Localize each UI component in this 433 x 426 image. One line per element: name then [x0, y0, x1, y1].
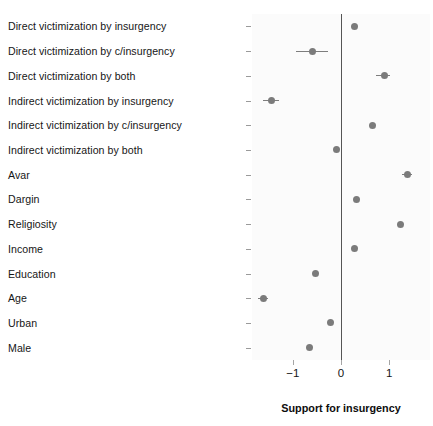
- y-axis-tick: [246, 249, 251, 250]
- y-axis-tick: [246, 274, 251, 275]
- category-label: Indirect victimization by insurgency: [8, 95, 240, 107]
- category-label: Education: [8, 268, 240, 280]
- y-axis-tick: [246, 199, 251, 200]
- data-point-dot: [397, 221, 404, 228]
- category-label: Indirect victimization by c/insurgency: [8, 119, 240, 131]
- data-point-row: [252, 26, 430, 27]
- data-point-row: [252, 125, 430, 126]
- y-axis-tick: [246, 76, 251, 77]
- x-axis-tick: [293, 360, 294, 365]
- data-point-dot: [312, 270, 319, 277]
- y-axis-tick: [246, 125, 251, 126]
- data-point-row: [252, 249, 430, 250]
- category-label: Urban: [8, 317, 240, 329]
- data-point-row: [252, 150, 430, 151]
- data-point-dot: [260, 295, 267, 302]
- data-point-dot: [309, 48, 316, 55]
- data-point-row: [252, 199, 430, 200]
- category-label: Religiosity: [8, 218, 240, 230]
- data-point-dot: [351, 23, 358, 30]
- y-axis-tick: [246, 298, 251, 299]
- category-label: Direct victimization by insurgency: [8, 20, 240, 32]
- y-axis-tick: [246, 175, 251, 176]
- data-point-dot: [369, 122, 376, 129]
- data-point-row: [252, 101, 430, 102]
- plot-panel: [252, 14, 430, 360]
- data-point-row: [252, 175, 430, 176]
- data-point-row: [252, 298, 430, 299]
- data-point-row: [252, 51, 430, 52]
- category-label: Avar: [8, 169, 240, 181]
- y-axis-tick: [246, 348, 251, 349]
- coefficient-plot-figure: Direct victimization by insurgencyDirect…: [0, 0, 433, 426]
- category-label: Dargin: [8, 193, 240, 205]
- data-point-row: [252, 76, 430, 77]
- category-label-column: Direct victimization by insurgencyDirect…: [0, 0, 240, 360]
- x-axis-tick: [389, 360, 390, 365]
- category-label: Income: [8, 243, 240, 255]
- data-point-row: [252, 348, 430, 349]
- y-axis-tick: [246, 323, 251, 324]
- category-label: Direct victimization by c/insurgency: [8, 45, 240, 57]
- x-axis-title: Support for insurgency: [252, 402, 430, 414]
- data-point-row: [252, 274, 430, 275]
- data-point-row: [252, 323, 430, 324]
- x-axis-tick-label: 0: [338, 366, 344, 380]
- x-axis-tick: [341, 360, 342, 365]
- y-axis-tick: [246, 150, 251, 151]
- zero-reference-line: [341, 14, 342, 360]
- y-axis-tick: [246, 26, 251, 27]
- data-point-row: [252, 224, 430, 225]
- y-axis-tick: [246, 101, 251, 102]
- category-label: Indirect victimization by both: [8, 144, 240, 156]
- category-label: Age: [8, 292, 240, 304]
- x-axis-tick-label: 1: [386, 366, 392, 380]
- category-label: Male: [8, 342, 240, 354]
- y-axis-tick: [246, 51, 251, 52]
- data-point-dot: [268, 97, 275, 104]
- x-axis: −101: [252, 360, 430, 390]
- x-axis-tick-label: −1: [286, 366, 299, 380]
- category-label: Direct victimization by both: [8, 70, 240, 82]
- y-axis-tick: [246, 224, 251, 225]
